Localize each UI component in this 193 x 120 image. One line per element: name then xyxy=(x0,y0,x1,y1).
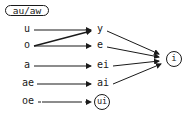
sound-change-diagram: au/aw u o a ae oe y e ei ai ui i xyxy=(0,0,193,120)
target-ai: ai xyxy=(97,78,109,88)
source-ae: ae xyxy=(22,78,34,88)
edge-o-y xyxy=(34,31,91,46)
target-ui-circled: ui xyxy=(94,94,110,110)
final-i-circled: i xyxy=(166,51,182,67)
edge-y-i xyxy=(107,31,159,54)
source-a: a xyxy=(24,60,30,70)
target-e: e xyxy=(97,40,103,50)
source-oe: oe xyxy=(22,96,34,106)
edge-ai-i xyxy=(113,64,161,84)
edge-e-i xyxy=(107,47,159,57)
target-y: y xyxy=(97,24,103,34)
edge-ei-i xyxy=(113,61,159,66)
target-ei: ei xyxy=(97,60,109,70)
source-o: o xyxy=(24,40,30,50)
source-u: u xyxy=(24,24,30,34)
